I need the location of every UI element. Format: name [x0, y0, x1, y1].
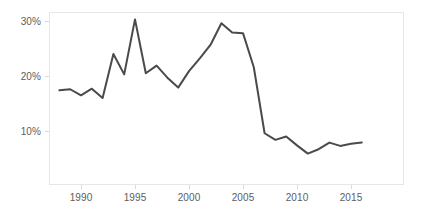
x-tick-label: 1995 [124, 192, 147, 203]
chart-figure: 10%20%30% 199019952000200520102015 [0, 0, 427, 217]
x-tick-mark [351, 185, 352, 189]
x-tick-label: 1990 [70, 192, 93, 203]
x-tick-label: 2000 [178, 192, 201, 203]
data-series-line [59, 19, 361, 153]
x-tick-mark [81, 185, 82, 189]
x-tick-mark [135, 185, 136, 189]
x-tick-label: 2015 [340, 192, 363, 203]
x-tick-label: 2005 [232, 192, 255, 203]
y-tick-mark [45, 21, 49, 22]
line-chart-svg [0, 0, 427, 217]
y-tick-label: 10% [21, 125, 41, 136]
y-tick-label: 30% [21, 15, 41, 26]
y-tick-label: 20% [21, 70, 41, 81]
x-tick-label: 2010 [286, 192, 309, 203]
x-tick-mark [297, 185, 298, 189]
x-tick-mark [243, 185, 244, 189]
y-tick-mark [45, 131, 49, 132]
x-tick-mark [189, 185, 190, 189]
y-tick-mark [45, 76, 49, 77]
